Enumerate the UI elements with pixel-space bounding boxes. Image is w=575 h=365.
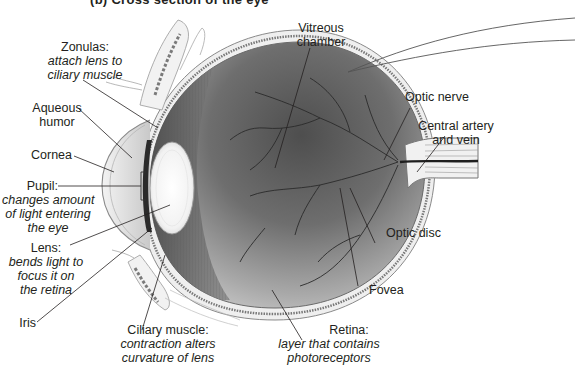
pupil-desc-2: of light entering	[2, 207, 94, 221]
label-cornea: Cornea	[10, 148, 72, 162]
label-zonulas: Zonulas: attach lens to ciliary muscle	[30, 40, 140, 82]
optic-nerve-term: Optic nerve	[405, 90, 469, 104]
iris-term: Iris	[10, 316, 36, 330]
ciliary-muscle-desc-1: contraction alters	[108, 337, 228, 351]
zonulas-desc-2: ciliary muscle	[30, 68, 140, 82]
central-artery-line-2: and vein	[414, 133, 498, 147]
retina-desc-2: photoreceptors	[268, 351, 390, 365]
label-aqueous-humor: Aqueous humor	[22, 101, 92, 129]
label-optic-nerve: Optic nerve	[405, 90, 469, 104]
label-pupil: Pupil: changes amount of light entering …	[2, 179, 94, 235]
retina-desc-1: layer that contains	[268, 337, 390, 351]
central-artery-line-1: Central artery	[414, 119, 498, 133]
retina-term: Retina:	[268, 323, 390, 337]
lens	[150, 142, 194, 234]
vitreous-chamber-line-1: Vitreous	[288, 21, 354, 35]
vitreous-chamber-line-2: chamber	[288, 35, 354, 49]
label-ciliary-muscle: Ciliary muscle: contraction alters curva…	[108, 323, 228, 365]
pupil-desc-1: changes amount	[2, 193, 94, 207]
zonulas-desc-1: attach lens to	[30, 54, 140, 68]
ciliary-muscle-term: Ciliary muscle:	[108, 323, 228, 337]
light-rays	[348, 18, 575, 72]
label-vitreous-chamber: Vitreous chamber	[288, 21, 354, 49]
pupil-desc-3: the eye	[2, 221, 94, 235]
aqueous-humor-line-2: humor	[22, 115, 92, 129]
label-fovea: Fovea	[369, 283, 404, 297]
aqueous-humor-line-1: Aqueous	[22, 101, 92, 115]
label-lens: Lens: bends light to focus it on the ret…	[6, 241, 86, 297]
ciliary-muscle-desc-2: curvature of lens	[108, 351, 228, 365]
optic-disc-term: Optic disc	[386, 226, 441, 240]
cornea	[102, 120, 150, 250]
zonulas-term: Zonulas:	[30, 40, 140, 54]
pupil-term: Pupil:	[2, 179, 94, 193]
label-optic-disc: Optic disc	[386, 226, 441, 240]
eye-cross-section-diagram: (b) Cross section of the eye	[0, 0, 575, 365]
lens-term: Lens:	[6, 241, 86, 255]
lens-desc-2: focus it on	[6, 269, 86, 283]
cornea-term: Cornea	[10, 148, 72, 162]
fovea-term: Fovea	[369, 283, 404, 297]
lens-desc-1: bends light to	[6, 255, 86, 269]
label-retina: Retina: layer that contains photorecepto…	[268, 323, 390, 365]
label-central-artery-vein: Central artery and vein	[414, 119, 498, 147]
lens-desc-3: the retina	[6, 283, 86, 297]
label-iris: Iris	[10, 316, 36, 330]
